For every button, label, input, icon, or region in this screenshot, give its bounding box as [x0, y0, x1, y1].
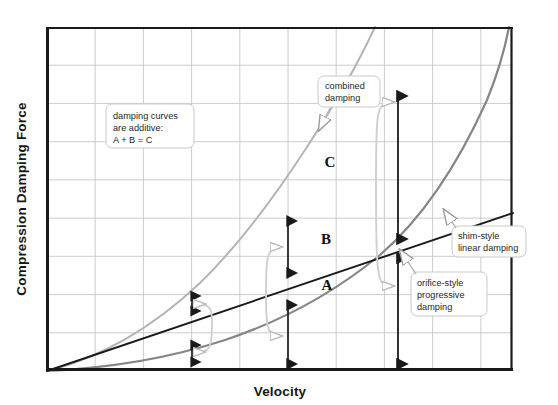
curve-label-a: A [322, 277, 333, 293]
callout-orifice-line3: damping [417, 302, 452, 312]
callout-orifice-line2: progressive [417, 290, 465, 300]
callout-orifice-line1: orifice-style [417, 278, 463, 288]
callout-additive-line2: are additive: [113, 123, 163, 133]
curve-label-c: C [325, 154, 336, 170]
x-axis-title: Velocity [254, 384, 307, 399]
chart-canvas: C B A damping curves are additive: A + B… [0, 0, 558, 405]
curve-label-b: B [321, 231, 331, 247]
damping-curve-figure: C B A damping curves are additive: A + B… [0, 0, 558, 405]
plot-area-background [47, 27, 513, 371]
callout-shim-line2: linear damping [458, 243, 518, 253]
callout-additive: damping curves are additive: A + B = C [106, 104, 194, 148]
y-axis-title: Compression Damping Force [14, 102, 29, 296]
callout-additive-line1: damping curves [113, 111, 178, 121]
callout-combined-line2: damping [325, 93, 360, 103]
callout-additive-line3: A + B = C [113, 135, 153, 145]
callout-combined-line1: combined [325, 81, 365, 91]
callout-shim-line1: shim-style [458, 231, 499, 241]
